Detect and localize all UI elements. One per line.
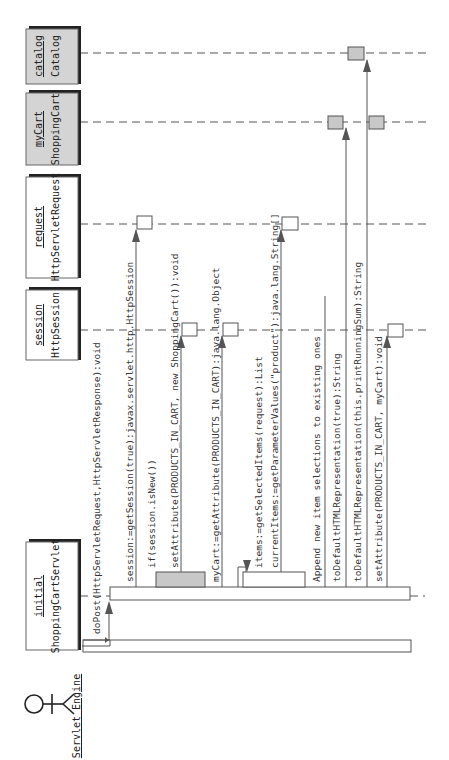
note-append-label: Append new item selections to existing o…	[311, 336, 322, 582]
object-initial-class: ShoppingCartServlet	[50, 539, 61, 653]
actor-label: Servlet Engine	[71, 674, 82, 758]
object-initial-instance: initial	[33, 575, 44, 617]
object-request-class: HttpServletRequest	[50, 173, 61, 281]
servlet-activation	[110, 587, 410, 600]
message-getparametervalues-label: currentItems:=getParameterValues("produc…	[269, 213, 280, 568]
object-session-instance: session	[33, 304, 44, 346]
object-request-instance: request	[33, 206, 44, 248]
object-catalog-instance: catalog	[33, 35, 44, 77]
message-getselecteditems-label: items:=getSelectedItems(request):List	[253, 356, 264, 568]
actor-servlet-engine[interactable]: Servlet Engine	[25, 674, 82, 758]
object-mycart[interactable]: myCart ShoppingCart	[26, 90, 81, 165]
request-activation-1	[137, 216, 152, 229]
mycart-activation-1	[328, 116, 343, 129]
arrowhead-icon	[243, 560, 251, 572]
session-activation-1	[182, 323, 197, 336]
session-activation-2	[223, 323, 238, 336]
message-getsession-label: session:=getSession(true):javax.servlet.…	[124, 262, 135, 582]
sequence-diagram: catalog Catalog myCart ShoppingCart requ…	[0, 0, 449, 760]
object-session[interactable]: session HttpSession	[26, 287, 81, 360]
message-getattribute-label: myCart:=getAttribute(PRODUCTS_IN_CART):j…	[210, 267, 221, 582]
message-todefaulthtml-cart-label: toDefaultHTMLRepresentation(true):String	[331, 353, 342, 582]
object-initial[interactable]: initial ShoppingCartServlet	[26, 539, 81, 653]
object-session-class: HttpSession	[50, 292, 61, 358]
arrowhead-icon	[105, 601, 113, 614]
mycart-activation-2	[369, 116, 384, 129]
arrowhead-icon	[363, 59, 371, 72]
session-activation-3	[388, 324, 403, 337]
message-dopost-label: doPost(HttpServletRequest,HttpServletRes…	[91, 342, 102, 634]
selected-items-activation	[243, 572, 305, 587]
guard-condition-label: if(session.isNew())	[146, 459, 157, 568]
object-mycart-instance: myCart	[33, 111, 44, 147]
object-catalog[interactable]: catalog Catalog	[26, 26, 81, 84]
actor-activation	[83, 640, 411, 652]
object-catalog-class: Catalog	[50, 35, 61, 77]
message-todefaulthtml-catalog-label: toDefaultHTMLRepresentation(this.printRu…	[352, 262, 363, 582]
conditional-activation	[156, 572, 205, 587]
message-setattribute-mycart-label: setAttribute(PRODUCTS_IN_CART, myCart):v…	[373, 336, 384, 582]
request-activation-2	[282, 217, 298, 230]
object-request[interactable]: request HttpServletRequest	[26, 173, 81, 281]
arrowhead-icon	[132, 229, 140, 242]
catalog-activation	[348, 47, 364, 60]
stick-figure-icon	[25, 694, 74, 714]
object-mycart-class: ShoppingCart	[50, 93, 61, 165]
message-setattribute-new-label: setAttribute(PRODUCTS_IN_CART, new Shopp…	[169, 253, 180, 568]
